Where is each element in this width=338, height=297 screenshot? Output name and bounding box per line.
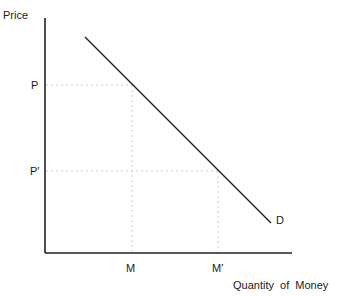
curve-label-d: D (276, 214, 284, 226)
demand-curve (85, 37, 271, 223)
price-label-p-prime: P′ (30, 165, 39, 177)
y-axis-label: Price (3, 9, 28, 21)
price-label-p: P (31, 79, 38, 91)
x-axis-label: Quantity of Money (233, 279, 328, 291)
diagram-canvas (0, 0, 338, 297)
quantity-label-m: M (126, 262, 135, 274)
quantity-label-m-prime: M′ (212, 262, 223, 274)
